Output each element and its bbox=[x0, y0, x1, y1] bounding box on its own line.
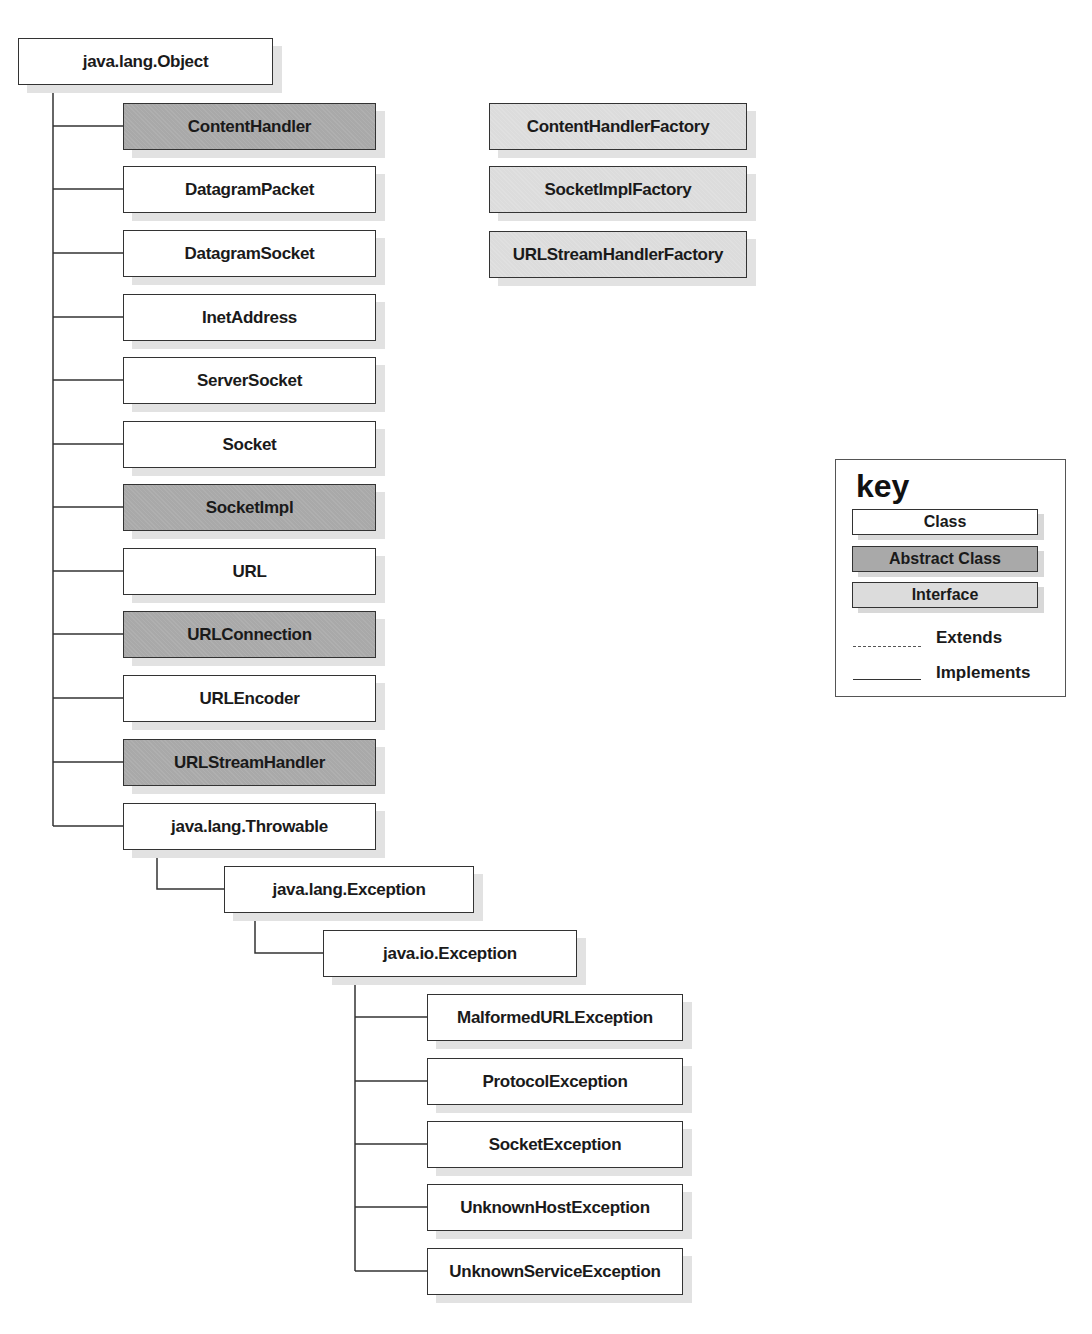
class-box-java-lang-exception: java.lang.Exception bbox=[224, 866, 474, 913]
class-box-datagramsocket: DatagramSocket bbox=[123, 230, 376, 277]
legend-interface-swatch: Interface bbox=[852, 582, 1038, 608]
interface-box-socketimplfactory: SocketImplFactory bbox=[489, 166, 747, 213]
class-box-unknownhostexception: UnknownHostException bbox=[427, 1184, 683, 1231]
class-box-java-lang-throwable: java.lang.Throwable bbox=[123, 803, 376, 850]
legend-title: key bbox=[856, 468, 909, 505]
class-box-socketexception: SocketException bbox=[427, 1121, 683, 1168]
abstract-class-box-urlconnection: URLConnection bbox=[123, 611, 376, 658]
legend-abstract-class-swatch: Abstract Class bbox=[852, 546, 1038, 572]
class-box-malformedurlexception: MalformedURLException bbox=[427, 994, 683, 1041]
class-box-datagrampacket: DatagramPacket bbox=[123, 166, 376, 213]
interface-box-contenthandlerfactory: ContentHandlerFactory bbox=[489, 103, 747, 150]
class-box-java-io-exception: java.io.Exception bbox=[323, 930, 577, 977]
abstract-class-box-socketimpl: SocketImpl bbox=[123, 484, 376, 531]
legend-solid-line bbox=[853, 679, 921, 680]
legend-dashed-line bbox=[853, 646, 921, 647]
class-box-inetaddress: InetAddress bbox=[123, 294, 376, 341]
legend-class-swatch: Class bbox=[852, 509, 1038, 535]
abstract-class-box-contenthandler: ContentHandler bbox=[123, 103, 376, 150]
class-box-urlencoder: URLEncoder bbox=[123, 675, 376, 722]
class-hierarchy-diagram: java.lang.Object ContentHandler Datagram… bbox=[0, 0, 1092, 1334]
legend-implements-label: Implements bbox=[936, 663, 1030, 683]
class-box-serversocket: ServerSocket bbox=[123, 357, 376, 404]
class-box-protocolexception: ProtocolException bbox=[427, 1058, 683, 1105]
legend-key: key Class Abstract Class Interface Exten… bbox=[835, 459, 1066, 697]
class-box-java-lang-object: java.lang.Object bbox=[18, 38, 273, 85]
class-box-unknownserviceexception: UnknownServiceException bbox=[427, 1248, 683, 1295]
class-box-url: URL bbox=[123, 548, 376, 595]
interface-box-urlstreamhandlerfactory: URLStreamHandlerFactory bbox=[489, 231, 747, 278]
legend-extends-label: Extends bbox=[936, 628, 1002, 648]
class-box-socket: Socket bbox=[123, 421, 376, 468]
abstract-class-box-urlstreamhandler: URLStreamHandler bbox=[123, 739, 376, 786]
